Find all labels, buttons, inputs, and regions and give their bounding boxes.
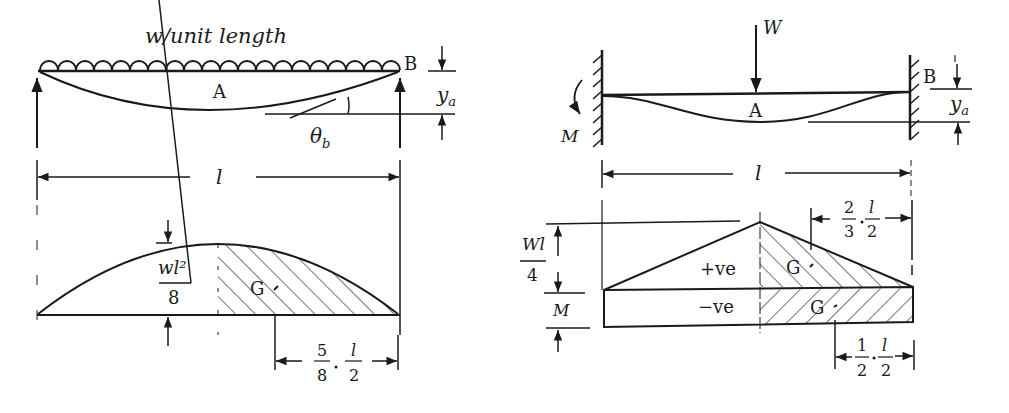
load-label: w/unit length	[145, 24, 287, 48]
diagram-canvas: w/unit length A B ya θb l wl² 8 G 5 8 l …	[0, 0, 1009, 413]
centroid-dist-frac1-num: 5	[317, 341, 327, 360]
centroid-dist-frac2-den: 2	[349, 366, 359, 385]
pos-dist-frac2-den: 2	[867, 222, 877, 241]
pos-dist-frac1-num: 2	[844, 198, 854, 217]
positive-region-label: +ve	[700, 258, 736, 279]
point-a-label: A	[212, 81, 227, 102]
centroid-dist-frac1-den: 8	[317, 366, 327, 385]
point-a-label-right: A	[748, 100, 763, 121]
span-label-right: l	[755, 161, 761, 185]
span-label: l	[216, 165, 222, 189]
neg-dist-frac2-num: l	[882, 336, 887, 355]
centroid-dist-frac2-num: l	[351, 341, 356, 360]
fixed-moment-label: M	[552, 301, 570, 320]
left-bm-hatched-region	[218, 244, 398, 314]
point-b-label: B	[404, 53, 417, 74]
bm-peak-numerator: wl²	[158, 257, 186, 278]
moment-label: M	[560, 126, 579, 146]
left-beam-figure	[37, 46, 456, 370]
bm-peak-denominator-right: 4	[527, 265, 538, 285]
right-beam-figure	[544, 25, 972, 370]
distributed-load-icon	[40, 61, 400, 70]
right-wall-hatch-icon	[910, 60, 919, 140]
neg-dist-frac1-num: 1	[857, 336, 867, 355]
slope-label: θb	[310, 124, 330, 151]
positive-centroid-label: G	[786, 257, 800, 278]
point-load-label: W	[763, 17, 783, 38]
negative-centroid-label: G	[810, 297, 824, 318]
point-b-label-right: B	[923, 66, 936, 87]
pos-dist-frac1-den: 3	[844, 222, 854, 241]
centroid-label: G	[250, 278, 264, 299]
deflection-label: ya	[436, 83, 456, 109]
neg-dist-frac1-den: 2	[857, 361, 867, 380]
bm-peak-numerator-right: Wl	[522, 234, 545, 254]
left-wall-hatch-icon	[593, 55, 602, 147]
negative-region-label: −ve	[698, 296, 734, 317]
moment-arrow-icon	[574, 80, 582, 114]
deflection-label-right: ya	[949, 92, 969, 118]
slope-angle-arc	[348, 97, 349, 114]
pos-dist-frac2-num: l	[869, 198, 874, 217]
right-beam	[602, 92, 910, 95]
bm-peak-denominator: 8	[168, 287, 179, 308]
neg-dist-frac2-den: 2	[881, 361, 891, 380]
